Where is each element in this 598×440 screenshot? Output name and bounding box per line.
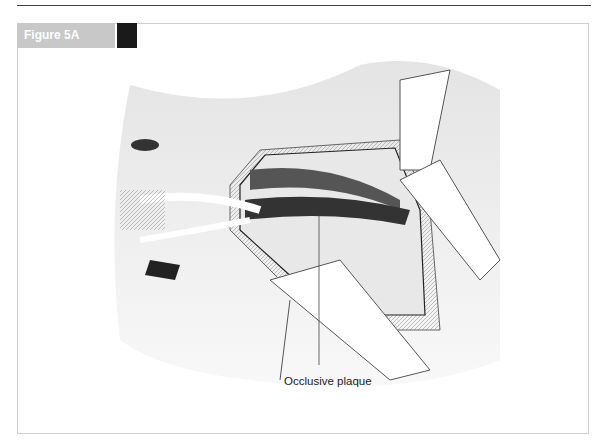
surgical-illustration (100, 60, 510, 390)
figure-label-accent (117, 23, 137, 48)
header-rule (17, 5, 591, 6)
figure-label: Figure 5A (17, 23, 115, 48)
callout-occlusive-plaque: Occlusive plaque (284, 375, 372, 387)
